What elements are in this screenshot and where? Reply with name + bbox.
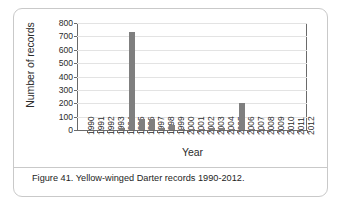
x-tick-label: 2004 xyxy=(226,116,236,135)
y-tick-label: 400 xyxy=(59,72,73,82)
bar xyxy=(229,129,235,130)
y-tick-mark xyxy=(74,50,77,51)
x-tick-label: 1997 xyxy=(156,116,166,135)
bar xyxy=(149,119,155,130)
x-tick-label: 2006 xyxy=(246,116,256,135)
x-tick-label: 1999 xyxy=(176,116,186,135)
bar xyxy=(209,128,215,130)
y-tick-label: 0 xyxy=(68,125,73,135)
x-tick-label: 2008 xyxy=(266,116,276,135)
gridline xyxy=(77,36,307,37)
y-tick-mark xyxy=(74,23,77,24)
bar xyxy=(179,129,185,130)
gridline xyxy=(77,103,307,104)
y-axis-title: Number of records xyxy=(24,5,36,125)
y-tick-mark xyxy=(74,63,77,64)
y-tick-mark xyxy=(74,103,77,104)
y-tick-mark xyxy=(74,130,77,131)
y-tick-label: 600 xyxy=(59,45,73,55)
x-tick-label: 2011 xyxy=(296,117,306,135)
x-tick-label: 2002 xyxy=(206,116,216,135)
x-tick-label: 2012 xyxy=(306,116,316,135)
x-tick-label: 2000 xyxy=(186,116,196,135)
gridline xyxy=(77,23,307,24)
bar xyxy=(159,128,165,130)
y-tick-mark xyxy=(74,90,77,91)
y-tick-label: 800 xyxy=(59,18,73,28)
x-tick-label: 2009 xyxy=(276,116,286,135)
x-tick-label: 1990 xyxy=(86,116,96,135)
bar xyxy=(189,129,195,130)
y-tick-mark xyxy=(74,77,77,78)
gridline xyxy=(77,50,307,51)
gridline xyxy=(77,77,307,78)
bar xyxy=(129,32,135,130)
x-tick-label: 2007 xyxy=(256,116,266,135)
x-tick-label: 1992 xyxy=(106,116,116,135)
y-tick-mark xyxy=(74,36,77,37)
y-tick-label: 200 xyxy=(59,98,73,108)
bar xyxy=(219,128,225,130)
y-tick-mark xyxy=(74,117,77,118)
x-tick-label: 2003 xyxy=(216,116,226,135)
x-tick-label: 1991 xyxy=(96,116,106,135)
figure-frame: Number of records 0100200300400500600700… xyxy=(13,8,328,197)
y-tick-label: 700 xyxy=(59,31,73,41)
y-tick-label: 100 xyxy=(59,112,73,122)
x-tick-label: 2010 xyxy=(286,116,296,135)
gridline xyxy=(77,63,307,64)
bar xyxy=(169,125,175,130)
x-axis-title: Year xyxy=(77,146,308,158)
figure-caption: Figure 41. Yellow-winged Darter records … xyxy=(32,173,244,183)
x-tick-label: 1993 xyxy=(116,116,126,135)
chart-area: Number of records 0100200300400500600700… xyxy=(14,9,329,167)
bar xyxy=(259,129,265,130)
plot-region: 0100200300400500600700800199019911992199… xyxy=(77,23,307,130)
gridline xyxy=(77,90,307,91)
bar xyxy=(249,129,255,130)
y-tick-label: 300 xyxy=(59,85,73,95)
bar xyxy=(199,129,205,130)
bar xyxy=(139,119,145,130)
y-tick-label: 500 xyxy=(59,58,73,68)
bar xyxy=(119,128,125,130)
bar xyxy=(239,103,245,130)
x-tick-label: 2001 xyxy=(196,116,206,135)
caption-divider xyxy=(14,167,327,168)
